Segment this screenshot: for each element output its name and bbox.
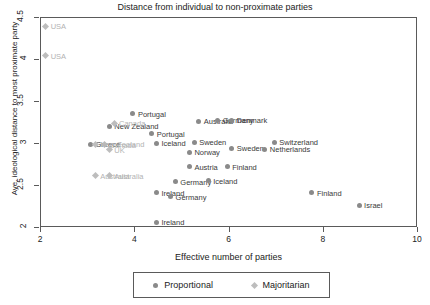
data-point-label: Finland (232, 163, 257, 172)
data-point-label: Portugal (138, 110, 166, 119)
x-axis-label: Effective number of parties (40, 252, 417, 262)
data-point-label: Norway (194, 148, 219, 157)
legend-item-majoritarian[interactable]: Majoritarian (252, 280, 310, 290)
data-point-majoritarian[interactable] (42, 52, 49, 59)
y-tick-label: 2 (0, 221, 26, 231)
data-point-proportional[interactable] (192, 140, 197, 145)
data-point-label: Ireland (161, 218, 184, 227)
chart-title: Distance from individual to non-proximat… (0, 2, 430, 12)
data-point-label: Austria (194, 163, 217, 172)
data-point-label: Iceland (161, 139, 185, 148)
data-point-proportional[interactable] (225, 164, 230, 169)
data-point-label: Sweden (237, 144, 264, 153)
y-tick-label: 2.5 (0, 179, 26, 189)
x-tick-label: 2 (28, 234, 52, 244)
circle-marker-icon (153, 283, 158, 288)
data-point-label: Iceland (213, 177, 237, 186)
data-point-proportional[interactable] (130, 111, 135, 116)
y-tick-label: 3.5 (0, 95, 26, 105)
data-point-label: USA (51, 52, 66, 61)
data-point-proportional[interactable] (149, 131, 154, 136)
x-tick-mark (417, 227, 418, 232)
legend-item-proportional[interactable]: Proportional (153, 280, 213, 290)
data-point-label: New Zealand (100, 140, 144, 149)
x-tick-label: 10 (405, 234, 429, 244)
data-point-majoritarian[interactable] (42, 23, 49, 30)
y-tick-mark (34, 227, 39, 228)
data-point-proportional[interactable] (173, 179, 178, 184)
data-point-proportional[interactable] (262, 147, 267, 152)
data-point-label: USA (51, 22, 66, 31)
y-tick-label: 4.5 (0, 11, 26, 21)
data-point-label: Sweden (199, 138, 226, 147)
x-tick-label: 4 (122, 234, 146, 244)
x-tick-label: 6 (217, 234, 241, 244)
legend-label-majoritarian: Majoritarian (263, 280, 310, 290)
x-tick-mark (229, 227, 230, 232)
x-tick-mark (323, 227, 324, 232)
y-tick-mark (34, 185, 39, 186)
legend-label-proportional: Proportional (164, 280, 213, 290)
y-tick-mark (34, 59, 39, 60)
data-point-label: Portugal (157, 130, 185, 139)
data-point-label: Germany (176, 193, 207, 202)
data-point-proportional[interactable] (229, 146, 234, 151)
plot-area: PortugalNew ZealandAustraliaGermanyDenma… (40, 17, 417, 227)
data-point-proportional[interactable] (309, 190, 314, 195)
diamond-marker-icon (251, 281, 258, 288)
data-point-majoritarian[interactable] (92, 172, 99, 179)
y-tick-mark (34, 17, 39, 18)
data-point-proportional[interactable] (187, 150, 192, 155)
y-tick-label: 3 (0, 137, 26, 147)
data-point-label: Israel (364, 201, 382, 210)
data-point-label: Denmark (237, 116, 267, 125)
data-point-proportional[interactable] (154, 220, 159, 225)
data-point-proportional[interactable] (154, 190, 159, 195)
chart-container: Distance from individual to non-proximat… (0, 0, 430, 305)
data-point-proportional[interactable] (154, 141, 159, 146)
data-point-proportional[interactable] (168, 194, 173, 199)
data-point-proportional[interactable] (196, 119, 201, 124)
data-point-proportional[interactable] (357, 203, 362, 208)
data-point-label: Finland (317, 189, 342, 198)
x-tick-mark (40, 227, 41, 232)
data-point-proportional[interactable] (187, 164, 192, 169)
y-tick-mark (34, 101, 39, 102)
data-point-label: Australia (114, 172, 143, 181)
x-tick-label: 8 (311, 234, 335, 244)
y-tick-label: 4 (0, 53, 26, 63)
x-tick-mark (134, 227, 135, 232)
y-tick-mark (34, 143, 39, 144)
chart-legend: Proportional Majoritarian (133, 272, 330, 298)
data-point-label: Canada (119, 119, 145, 128)
data-point-label: Netherlands (270, 145, 310, 154)
